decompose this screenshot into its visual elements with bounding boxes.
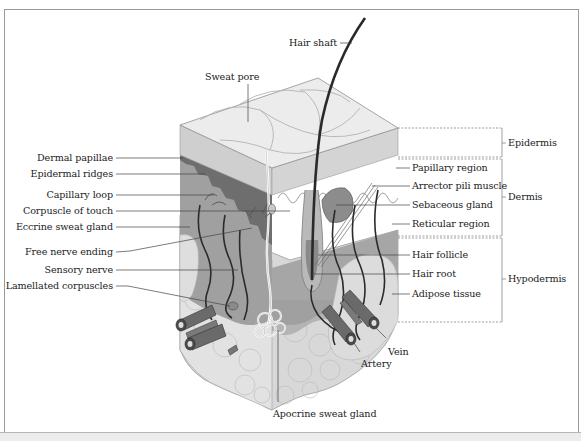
label-epidermis: Epidermis — [508, 137, 557, 149]
label-hair-shaft: Hair shaft — [289, 37, 337, 49]
label-hypodermis: Hypodermis — [508, 273, 566, 285]
label-artery: Artery — [361, 358, 391, 370]
label-eccrine-sweat-gland: Eccrine sweat gland — [16, 221, 113, 233]
label-adipose-tissue: Adipose tissue — [412, 288, 481, 300]
label-vein: Vein — [388, 346, 409, 358]
label-sweat-pore: Sweat pore — [205, 71, 259, 83]
label-papillary-region: Papillary region — [412, 162, 488, 174]
corpuscle-of-touch-shape — [269, 204, 276, 214]
label-hair-follicle: Hair follicle — [412, 249, 468, 261]
label-hair-root: Hair root — [412, 268, 456, 280]
label-dermis: Dermis — [508, 191, 542, 203]
label-sensory-nerve: Sensory nerve — [45, 264, 113, 276]
label-capillary-loop: Capillary loop — [46, 189, 113, 201]
label-lamellated-corpuscles: Lamellated corpuscles — [6, 280, 113, 292]
label-arrector-pili-muscle: Arrector pili muscle — [412, 180, 507, 192]
label-epidermal-ridges: Epidermal ridges — [31, 168, 114, 180]
label-sebaceous-gland: Sebaceous gland — [412, 199, 493, 211]
label-dermal-papillae: Dermal papillae — [37, 152, 113, 164]
label-free-nerve-ending: Free nerve ending — [25, 246, 113, 258]
label-reticular-region: Reticular region — [412, 218, 490, 230]
label-apocrine-sweat-gland: Apocrine sweat gland — [273, 408, 376, 420]
label-corpuscle-of-touch: Corpuscle of touch — [23, 205, 113, 217]
